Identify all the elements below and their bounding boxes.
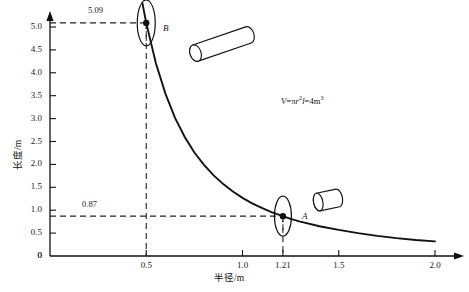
- guide-label-b-value: 5.09: [88, 6, 103, 15]
- x-tick-label: 1.0: [226, 261, 260, 270]
- y-axis-arrow: [46, 11, 53, 21]
- x-axis-title: 半径/m: [214, 274, 244, 284]
- y-axis-title: 长度/m: [14, 140, 24, 170]
- y-tick-label: 3.5: [18, 91, 42, 100]
- chart-figure: 00.51.01.52.02.53.03.54.04.55.0 0.51.01.…: [0, 0, 469, 292]
- x-tick-label: 0.5: [129, 261, 163, 270]
- guide-label-a-value: 0.87: [82, 200, 97, 209]
- origin-label: 0: [18, 251, 42, 260]
- formula-annotation: V=πr2l=4m3: [281, 95, 324, 105]
- x-tick-label: 1.21: [266, 261, 300, 270]
- cylinder-short-near-A-icon: [312, 188, 344, 212]
- y-tick-label: 4.5: [18, 45, 42, 54]
- y-tick-label: 4.0: [18, 68, 42, 77]
- formula-sup3: 3: [321, 95, 324, 101]
- y-tick-label: 5.0: [18, 22, 42, 31]
- guide-lines-group: [50, 23, 283, 256]
- x-tick-marks: [146, 250, 435, 256]
- y-tick-label: 1.5: [18, 182, 42, 191]
- y-tick-marks: [50, 27, 56, 233]
- formula-unit: m: [314, 96, 321, 106]
- formula-eq2: =4: [305, 96, 314, 106]
- data-point-markers: [137, 0, 291, 236]
- chart-canvas: [0, 0, 469, 292]
- cylinder-tall-near-B-icon: [188, 25, 257, 63]
- y-tick-label: 1.0: [18, 205, 42, 214]
- point-label-a: A: [302, 212, 308, 221]
- y-tick-label: 0.5: [18, 228, 42, 237]
- x-tick-label: 1.5: [322, 261, 356, 270]
- axes-group: [46, 11, 464, 260]
- x-axis-arrow: [454, 252, 464, 259]
- y-tick-label: 3.0: [18, 114, 42, 123]
- point-label-b: B: [163, 24, 169, 33]
- data-curve: [142, 3, 435, 241]
- x-tick-label: 2.0: [418, 261, 452, 270]
